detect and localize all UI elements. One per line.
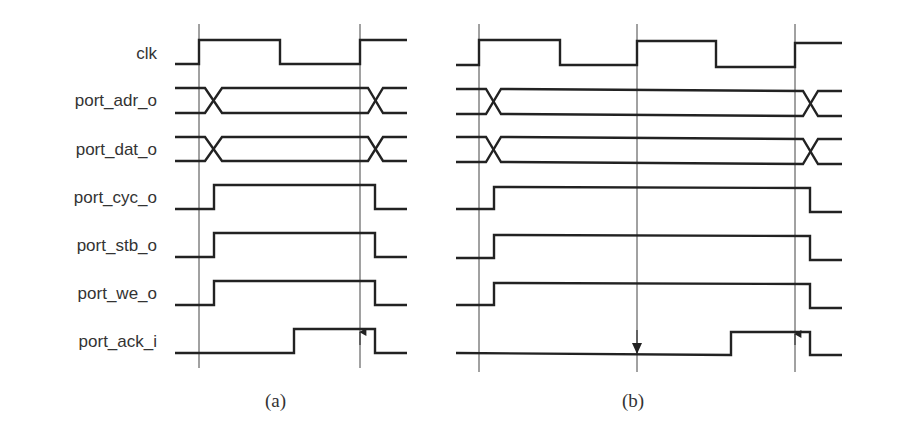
waveform-cyc (175, 185, 407, 209)
waveform-cyc (456, 187, 842, 212)
waveform-dat-lower (456, 137, 842, 164)
waveform-ack (456, 332, 842, 355)
waveform-clk (175, 40, 407, 64)
waveform-dat-upper (175, 137, 407, 161)
waveform-dat-lower (175, 137, 407, 161)
waveform-we (456, 283, 842, 308)
panel-a (175, 24, 407, 368)
waveform-we (175, 281, 407, 305)
clock-edge-markers (479, 24, 795, 372)
clock-edge-markers (199, 24, 360, 368)
waveform-adr-upper (175, 88, 407, 113)
waveform-clk (456, 40, 842, 67)
waveform-dat-upper (456, 137, 842, 164)
waveform-adr-lower (456, 89, 842, 116)
waveform-stb (456, 235, 842, 260)
panel-b (456, 24, 842, 372)
waveform-stb (175, 233, 407, 257)
caption-a: (a) (265, 390, 286, 412)
waveforms (0, 0, 898, 436)
waveform-ack (175, 329, 407, 353)
caption-b: (b) (622, 390, 644, 412)
down-arrow-head-icon (632, 343, 642, 354)
waveform-adr-lower (175, 88, 407, 113)
timing-diagram: clk port_adr_o port_dat_o port_cyc_o por… (0, 0, 898, 436)
waveform-adr-upper (456, 89, 842, 116)
